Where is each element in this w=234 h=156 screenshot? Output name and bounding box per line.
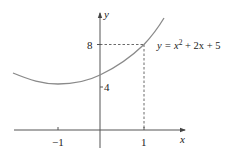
equation-lhs: y = x [156,40,179,51]
x-tick-label-1: 1 [141,136,147,148]
y-axis-label: y [103,8,109,20]
y-tick-label-4: 4 [104,81,110,93]
y-tick-label-8: 8 [87,39,93,51]
x-axis-label: x [179,133,185,145]
equation-label: y = x2 + 2x + 5 [156,38,221,51]
x-tick-label-neg1: −1 [52,136,64,148]
equation-rhs: + 2x + 5 [182,40,220,51]
parabola-curve [13,18,164,84]
function-plot: y x −1 1 8 4 y = x2 + 2x + 5 [0,0,234,156]
